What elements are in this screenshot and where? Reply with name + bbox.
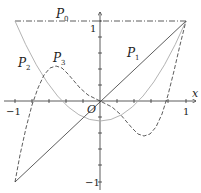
label-p1: P1 <box>126 46 140 62</box>
curve-p2 <box>15 21 186 121</box>
tick-y-1: 1 <box>90 23 96 34</box>
label-p2: P2 <box>17 56 31 72</box>
label-p3: P3 <box>52 51 66 67</box>
tick-x-neg1: −1 <box>6 106 21 117</box>
curve-p1 <box>15 21 186 182</box>
x-axis-label: x <box>192 87 199 100</box>
legendre-diagram: P0 P1 P2 P3 x O −1 1 1 −1 <box>0 0 201 193</box>
tick-x-1: 1 <box>183 106 189 117</box>
origin-label: O <box>87 103 96 116</box>
label-p0: P0 <box>55 7 69 23</box>
tick-y-neg1: −1 <box>85 177 100 188</box>
